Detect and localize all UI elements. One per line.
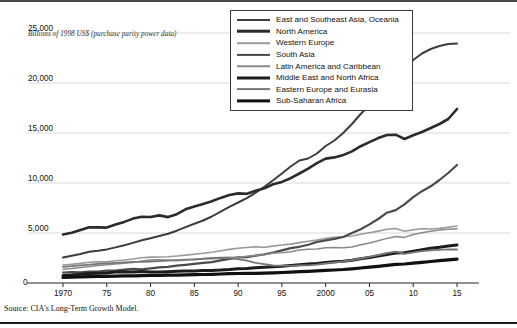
legend-item-label: Middle East and North Africa <box>276 73 379 82</box>
legend-line-swatch-icon <box>235 26 271 37</box>
legend-item-label: South Asia <box>276 50 315 59</box>
x-tick-label: 90 <box>234 289 243 298</box>
legend-item-3[interactable]: South Asia <box>235 49 408 61</box>
legend-item-7[interactable]: Sub-Saharan Africa <box>235 95 408 107</box>
legend-item-label: North America <box>276 27 327 36</box>
x-tick-label: 2000 <box>317 289 335 298</box>
legend-line-swatch-icon <box>235 72 271 83</box>
series-line-1 <box>63 109 457 235</box>
legend-item-label: Western Europe <box>276 38 334 47</box>
legend-item-label: East and Southeast Asia, Oceania <box>276 15 399 24</box>
legend-line-swatch-icon <box>235 49 271 60</box>
chart-figure: Billions of 1998 US$ (purchase parity po… <box>0 0 517 328</box>
legend-item-label: Latin America and Caribbean <box>276 62 380 71</box>
legend-item-6[interactable]: Eastern Europe and Eurasia <box>235 84 408 96</box>
x-tick-label: 80 <box>146 289 155 298</box>
y-tick-label: 10,000 <box>28 174 53 183</box>
legend-line-swatch-icon <box>235 61 271 72</box>
legend-line-swatch-icon <box>235 95 271 106</box>
y-tick-label: 5,000 <box>28 224 49 233</box>
x-tick-label: 15 <box>452 289 461 298</box>
footer-rule <box>0 322 517 324</box>
x-tick-label: 85 <box>190 289 199 298</box>
legend-item-2[interactable]: Western Europe <box>235 37 408 49</box>
y-tick-label: 0 <box>23 278 28 287</box>
y-tick-label: 25,000 <box>28 24 53 33</box>
legend-line-swatch-icon <box>235 84 271 95</box>
legend-item-label: Sub-Saharan Africa <box>276 96 346 105</box>
legend-item-4[interactable]: Latin America and Caribbean <box>235 60 408 72</box>
x-tick-label: 1970 <box>54 289 72 298</box>
legend-item-label: Eastern Europe and Eurasia <box>276 85 378 94</box>
series-line-3 <box>63 165 457 273</box>
legend-item-1[interactable]: North America <box>235 26 408 38</box>
x-tick-label: 05 <box>365 289 374 298</box>
x-tick-label: 10 <box>409 289 418 298</box>
x-tick-label: 95 <box>277 289 286 298</box>
x-tick-label: 75 <box>102 289 111 298</box>
chart-legend: East and Southeast Asia, OceaniaNorth Am… <box>230 10 413 111</box>
source-note: Source: CIA's Long-Term Growth Model. <box>4 304 138 313</box>
legend-item-0[interactable]: East and Southeast Asia, Oceania <box>235 14 408 26</box>
legend-item-5[interactable]: Middle East and North Africa <box>235 72 408 84</box>
legend-line-swatch-icon <box>235 14 271 25</box>
y-tick-label: 20,000 <box>28 74 53 83</box>
legend-line-swatch-icon <box>235 37 271 48</box>
y-tick-label: 15,000 <box>28 124 53 133</box>
